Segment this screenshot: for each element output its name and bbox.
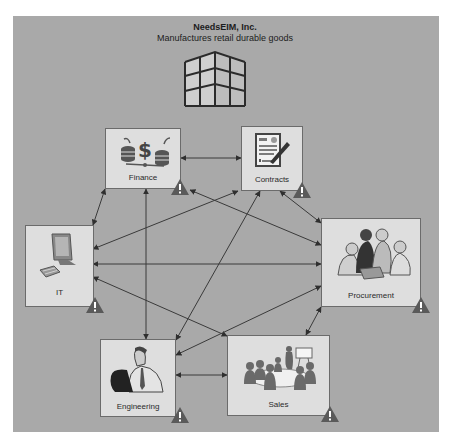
- department-label: Finance: [106, 173, 180, 182]
- team-meeting-icon: [330, 225, 416, 281]
- warning-icon[interactable]: [170, 406, 190, 424]
- department-label: Procurement: [322, 291, 420, 300]
- computer-monitor-keyboard-icon: [38, 232, 82, 280]
- department-engineering[interactable]: Engineering: [100, 339, 176, 417]
- department-label: IT: [26, 288, 93, 297]
- finance-coins-dollar-icon: $: [118, 135, 172, 169]
- department-it[interactable]: IT: [25, 225, 94, 307]
- warning-icon[interactable]: [170, 178, 190, 196]
- connection-procurement-sales: [306, 307, 321, 335]
- department-label: Sales: [228, 400, 329, 409]
- connection-contracts-engineering: [176, 191, 260, 340]
- contract-document-pen-icon: [254, 132, 292, 172]
- warning-icon[interactable]: [320, 405, 340, 423]
- warning-icon[interactable]: [411, 296, 431, 314]
- warning-icon[interactable]: [85, 296, 105, 314]
- department-procurement[interactable]: Procurement: [321, 218, 421, 307]
- department-sales[interactable]: Sales: [227, 335, 330, 416]
- connection-contracts-it: [93, 191, 238, 249]
- department-label: Engineering: [101, 402, 175, 411]
- warning-icon[interactable]: [292, 181, 312, 199]
- presentation-meeting-icon: [238, 344, 322, 396]
- engineer-at-computer-icon: [109, 346, 169, 398]
- connection-finance-it: [93, 189, 105, 225]
- svg-text:$: $: [138, 138, 152, 162]
